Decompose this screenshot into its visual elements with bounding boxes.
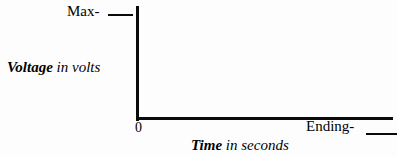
x-axis-title-strong: Time xyxy=(191,137,222,153)
y-axis-title: Voltage in volts xyxy=(7,60,100,75)
x-axis-title-light: in seconds xyxy=(226,137,289,153)
y-axis-line xyxy=(136,6,139,121)
voltage-time-axes-figure: Max- 0 Ending- Voltage in volts Time in … xyxy=(0,0,397,157)
x-axis-ending-tick-dash xyxy=(366,133,397,135)
y-axis-max-tick-label: Max- xyxy=(67,4,100,19)
x-axis-line xyxy=(136,117,393,120)
y-axis-title-strong: Voltage xyxy=(7,59,53,75)
x-axis-title: Time in seconds xyxy=(191,138,289,153)
y-axis-max-tick-dash xyxy=(108,14,133,16)
origin-tick-label: 0 xyxy=(135,121,142,135)
x-axis-ending-tick-label: Ending- xyxy=(306,119,354,134)
y-axis-title-light: in volts xyxy=(57,59,101,75)
